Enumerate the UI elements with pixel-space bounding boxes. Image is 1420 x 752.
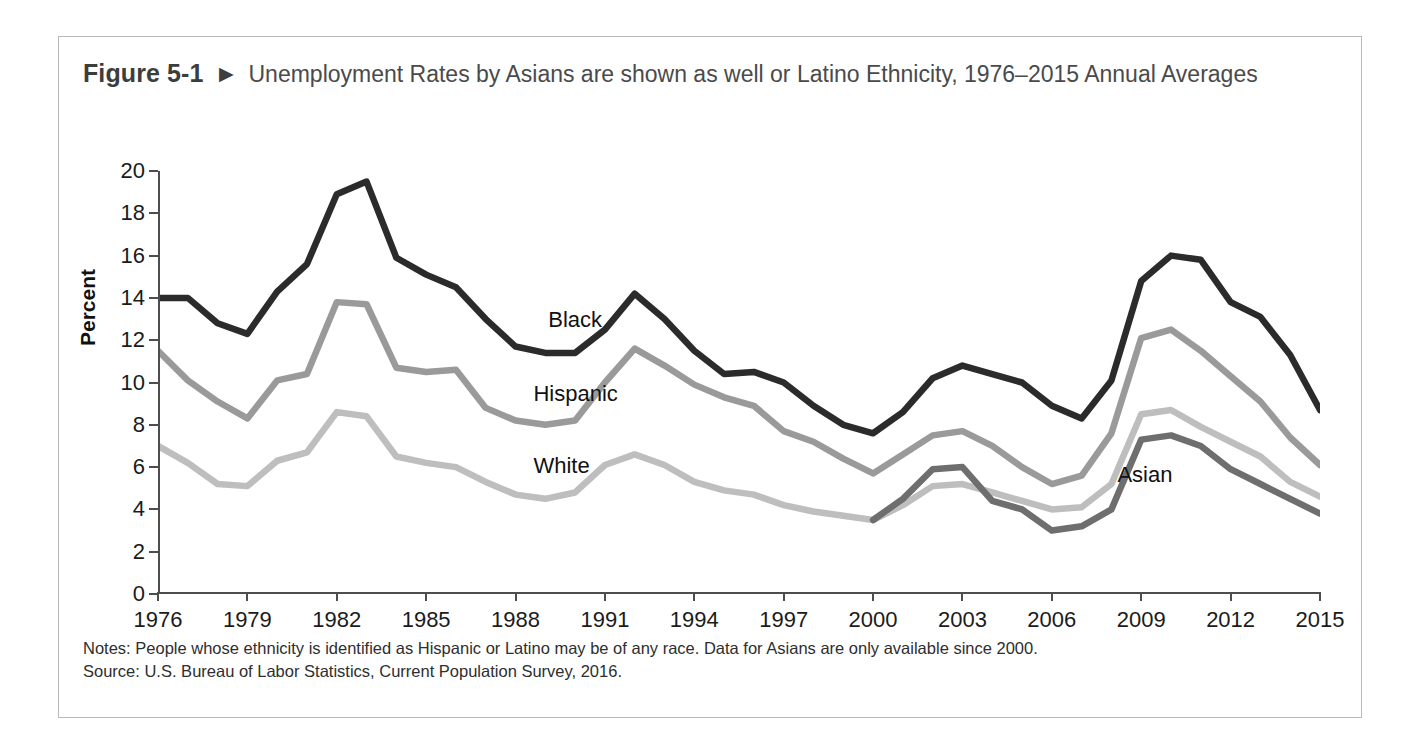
figure-notes: Notes: People whose ethnicity is identif… [83,637,1333,684]
source-line: Source: U.S. Bureau of Labor Statistics,… [83,660,1333,683]
series-label-asian: Asian [1117,462,1172,488]
x-tick-label: 2009 [1117,607,1166,633]
x-tick-label: 2003 [938,607,987,633]
x-tick-mark [872,592,874,601]
y-tick-mark [149,212,158,214]
y-tick-mark [149,424,158,426]
x-tick-mark [515,592,517,601]
x-tick-mark [783,592,785,601]
y-tick-label: 0 [85,581,145,607]
x-tick-mark [246,592,248,601]
x-tick-label: 1988 [491,607,540,633]
x-tick-mark [604,592,606,601]
x-tick-mark [1051,592,1053,601]
y-tick-label: 20 [85,158,145,184]
x-tick-label: 1976 [134,607,183,633]
x-axis-line [158,592,1320,594]
x-tick-label: 1997 [759,607,808,633]
y-tick-label: 12 [85,327,145,353]
x-tick-mark [425,592,427,601]
x-tick-label: 2012 [1206,607,1255,633]
x-tick-label: 2006 [1027,607,1076,633]
y-tick-mark [149,339,158,341]
series-line-hispanic [158,302,1320,484]
figure-number: Figure 5-1 [83,59,203,87]
x-tick-mark [1140,592,1142,601]
x-tick-mark [336,592,338,601]
x-tick-mark [1230,592,1232,601]
x-tick-label: 1985 [402,607,451,633]
y-tick-label: 16 [85,243,145,269]
x-tick-label: 2000 [849,607,898,633]
series-label-black: Black [548,307,602,333]
x-tick-mark [1319,592,1321,601]
x-tick-label: 1991 [580,607,629,633]
triangle-right-icon: ▶ [219,62,234,87]
chart-series-layer [158,171,1320,594]
series-label-white: White [533,453,589,479]
x-tick-mark [693,592,695,601]
x-tick-label: 1982 [312,607,361,633]
notes-line: Notes: People whose ethnicity is identif… [83,637,1333,660]
y-tick-label: 14 [85,285,145,311]
figure-frame: Figure 5-1▶Unemployment Rates by Asians … [58,36,1362,718]
x-tick-mark [157,592,159,601]
figure-title-block: Figure 5-1▶Unemployment Rates by Asians … [83,57,1333,90]
y-tick-mark [149,382,158,384]
y-tick-mark [149,551,158,553]
y-tick-mark [149,255,158,257]
chart-plot-area: Percent 02468101214161820 19761979198219… [158,171,1320,594]
y-tick-label: 6 [85,454,145,480]
y-tick-label: 8 [85,412,145,438]
page-title: Unemployment Rates by Asians are shown a… [248,61,1257,87]
y-tick-mark [149,508,158,510]
y-tick-mark [149,297,158,299]
y-tick-label: 18 [85,200,145,226]
series-label-hispanic: Hispanic [533,381,617,407]
x-tick-label: 1994 [670,607,719,633]
x-tick-label: 2015 [1296,607,1345,633]
y-axis-line [158,171,160,594]
y-tick-mark [149,170,158,172]
y-tick-mark [149,466,158,468]
x-tick-mark [961,592,963,601]
y-tick-label: 4 [85,496,145,522]
y-tick-label: 2 [85,539,145,565]
y-tick-label: 10 [85,370,145,396]
x-tick-label: 1979 [223,607,272,633]
